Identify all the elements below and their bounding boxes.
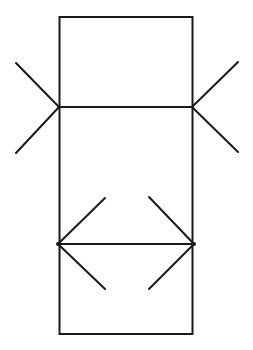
upper-right-fin-bottom [192, 107, 238, 152]
outer-rectangle [60, 17, 193, 334]
lower-left-arrow-bottom [58, 244, 105, 289]
muller-lyer-diagram [0, 0, 253, 350]
upper-segment-group [16, 62, 238, 153]
lower-right-arrow-top [149, 197, 194, 244]
upper-left-fin-top [16, 63, 59, 107]
lower-left-arrow-top [58, 198, 105, 244]
upper-right-fin-top [192, 62, 238, 107]
lower-segment-group [56, 197, 196, 289]
upper-left-fin-bottom [16, 107, 59, 153]
lower-left-vertex-dot [56, 242, 60, 246]
lower-right-vertex-dot [192, 242, 196, 246]
lower-right-arrow-bottom [149, 244, 194, 289]
